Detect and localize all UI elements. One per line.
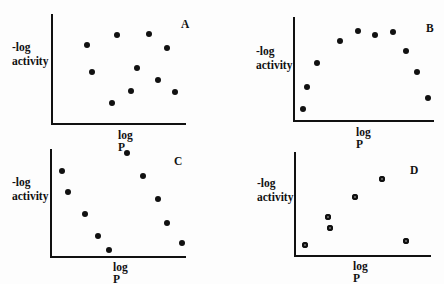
y-label-line2: activity — [12, 54, 48, 68]
data-point — [425, 95, 431, 101]
data-point — [414, 69, 420, 75]
data-point — [106, 247, 112, 253]
data-point — [114, 32, 120, 38]
data-point — [403, 238, 409, 244]
x-axis — [294, 255, 431, 257]
data-point — [134, 65, 140, 71]
data-point — [84, 42, 90, 48]
y-axis-label: -log activity — [12, 175, 48, 203]
x-axis — [293, 120, 434, 122]
data-point — [65, 189, 71, 195]
x-axis — [51, 123, 186, 125]
data-point — [172, 89, 178, 95]
data-point — [314, 60, 320, 66]
y-label-line1: -log — [12, 40, 48, 54]
data-point — [179, 240, 185, 246]
data-point — [372, 32, 378, 38]
y-axis — [51, 14, 53, 125]
data-point — [302, 242, 308, 248]
data-point — [164, 45, 170, 51]
y-axis — [294, 152, 296, 257]
y-axis-label: -log activity — [257, 176, 293, 204]
x-axis-label: log P — [356, 126, 371, 150]
data-point — [379, 176, 385, 182]
panel-letter: D — [410, 164, 418, 176]
panel-letter: A — [181, 18, 189, 30]
y-axis-label: -log activity — [12, 40, 48, 68]
data-point — [82, 211, 88, 217]
data-point — [390, 29, 396, 35]
data-point — [95, 233, 101, 239]
data-point — [325, 214, 331, 220]
panel-letter: C — [174, 155, 182, 167]
y-label-line2: activity — [12, 189, 48, 203]
data-point — [109, 100, 115, 106]
y-label-line1: -log — [256, 44, 292, 58]
y-label-line1: -log — [12, 175, 48, 189]
data-point — [146, 31, 152, 37]
y-label-line1: -log — [257, 176, 293, 190]
data-point — [124, 150, 130, 156]
data-point — [140, 173, 146, 179]
data-point — [352, 194, 358, 200]
data-point — [327, 225, 333, 231]
data-point — [304, 84, 310, 90]
y-axis — [50, 149, 52, 258]
data-point — [89, 69, 95, 75]
y-axis-label: -log activity — [256, 44, 292, 72]
y-label-line2: activity — [257, 190, 293, 204]
data-point — [128, 88, 134, 94]
data-point — [355, 28, 361, 34]
panel-letter: B — [426, 22, 434, 34]
data-point — [164, 220, 170, 226]
y-axis — [293, 17, 295, 122]
data-point — [337, 38, 343, 44]
x-axis — [50, 256, 186, 258]
data-point — [155, 196, 161, 202]
data-point — [300, 106, 306, 112]
x-axis-label: log P — [353, 260, 368, 284]
data-point — [59, 168, 65, 174]
data-point — [403, 48, 409, 54]
data-point — [155, 77, 161, 83]
x-axis-label: log P — [113, 261, 128, 284]
y-label-line2: activity — [256, 58, 292, 72]
